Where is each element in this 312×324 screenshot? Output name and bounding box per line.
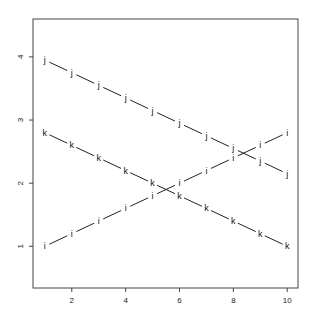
series-segment	[211, 160, 229, 168]
point-marker: i	[205, 166, 207, 176]
point-marker: k	[70, 140, 75, 150]
series-segment	[103, 211, 121, 219]
series-i: iiiiiiiiii	[44, 128, 288, 252]
point-marker: i	[71, 229, 73, 239]
series-segment	[211, 211, 229, 219]
y-tick-label: 2	[16, 180, 25, 185]
point-marker: i	[179, 178, 181, 188]
point-marker: k	[177, 191, 182, 201]
series-segment	[130, 100, 148, 108]
point-marker: j	[178, 118, 181, 128]
series-segment	[184, 125, 202, 133]
series-segment	[184, 173, 202, 181]
series-group: jjjjjjjjjjkkkkkkkkkkiiiiiiiiii	[43, 55, 290, 251]
point-marker: k	[204, 203, 209, 213]
point-marker: k	[258, 229, 263, 239]
point-marker: k	[231, 216, 236, 226]
series-j: jjjjjjjjjj	[43, 55, 288, 179]
series-segment	[265, 163, 283, 171]
point-marker: j	[124, 93, 127, 103]
y-tick-label: 1	[16, 244, 25, 249]
y-tick-label: 4	[16, 54, 25, 59]
series-segment	[49, 135, 67, 143]
point-marker: i	[152, 191, 154, 201]
x-tick-label: 10	[283, 296, 292, 305]
x-tick-label: 8	[231, 296, 236, 305]
point-marker: i	[44, 241, 46, 251]
point-marker: j	[97, 80, 100, 90]
series-segment	[103, 87, 121, 95]
point-marker: k	[150, 178, 155, 188]
series-segment	[130, 173, 148, 181]
point-marker: i	[232, 153, 234, 163]
series-segment	[76, 75, 94, 83]
point-marker: k	[285, 241, 290, 251]
y-tick-label: 3	[16, 117, 25, 122]
point-marker: i	[98, 216, 100, 226]
series-segment	[157, 113, 175, 121]
plot-frame	[33, 19, 298, 288]
point-marker: i	[125, 203, 127, 213]
x-axis: 246810	[70, 288, 293, 305]
series-segment	[238, 223, 256, 231]
line-chart: 246810 1234 jjjjjjjjjjkkkkkkkkkkiiiiiiii…	[0, 0, 312, 324]
x-tick-label: 2	[70, 296, 75, 305]
point-marker: j	[151, 106, 154, 116]
point-marker: j	[258, 156, 261, 166]
series-segment	[103, 160, 121, 168]
y-axis: 1234	[16, 54, 33, 248]
x-tick-label: 6	[177, 296, 182, 305]
point-marker: j	[43, 55, 46, 65]
point-marker: i	[259, 140, 261, 150]
series-segment	[265, 236, 283, 244]
point-marker: j	[70, 68, 73, 78]
point-marker: j	[285, 169, 288, 179]
series-segment	[265, 135, 283, 143]
point-marker: k	[43, 128, 48, 138]
series-segment	[211, 138, 229, 146]
series-segment	[76, 147, 94, 155]
point-marker: k	[123, 166, 128, 176]
series-segment	[76, 223, 94, 231]
x-tick-label: 4	[123, 296, 128, 305]
point-marker: k	[96, 153, 101, 163]
series-segment	[130, 198, 148, 206]
series-segment	[49, 62, 67, 70]
point-marker: j	[204, 131, 207, 141]
series-segment	[184, 198, 202, 206]
series-segment	[49, 236, 67, 244]
point-marker: i	[286, 128, 288, 138]
